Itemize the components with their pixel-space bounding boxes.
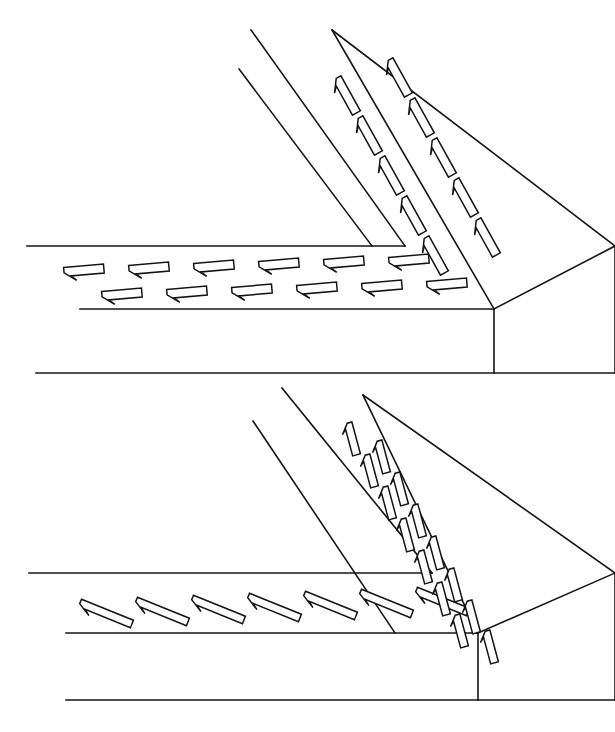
- top-horizontal-row-a-arrow-4: [324, 256, 365, 273]
- top-horizontal-row-b-arrow-4: [362, 280, 403, 297]
- top-horizontal-row-b-arrow-0: [102, 288, 143, 305]
- bottom-horizontal-row-arrow-4: [301, 591, 358, 623]
- top-horizontal-row-a-arrow-2: [194, 260, 235, 277]
- top-horizontal-row-b-arrow-5: [427, 278, 468, 295]
- top-horizontal-row-a-arrow-3: [259, 258, 300, 275]
- top-diagonal-col-a-arrow-2: [373, 156, 405, 198]
- drawing-canvas: [0, 0, 615, 732]
- top-edge-8: [332, 30, 494, 309]
- bottom-diagonal-col-a-arrow-0: [340, 422, 361, 457]
- top-diagonal-col-a-arrow-0: [329, 76, 361, 118]
- marking-group-top: [64, 58, 501, 306]
- bottom-diagonal-col-a-arrow-1: [358, 454, 379, 489]
- top-edge-3: [494, 246, 615, 309]
- bottom-diagonal-col-a-arrow-6: [448, 614, 469, 649]
- bottom-horizontal-row-arrow-3: [245, 593, 302, 625]
- bottom-horizontal-row-arrow-1: [133, 597, 190, 629]
- outline-group-bottom: [29, 388, 615, 700]
- top-diagonal-col-a-arrow-3: [395, 196, 427, 238]
- bottom-diagonal-col-a-arrow-4: [412, 550, 433, 585]
- top-horizontal-row-a-arrow-1: [129, 262, 170, 279]
- bottom-horizontal-row-arrow-2: [189, 595, 246, 627]
- top-diagonal-col-b-arrow-2: [425, 138, 457, 180]
- figure-upper-corner-assembly: [0, 0, 615, 390]
- top-horizontal-row-b-arrow-1: [167, 286, 208, 303]
- top-diagonal-col-b-arrow-0: [381, 58, 413, 100]
- top-horizontal-row-b-arrow-3: [297, 282, 338, 299]
- top-diagonal-col-a-arrow-1: [351, 116, 383, 158]
- figure-lower-corner-assembly: [0, 385, 615, 732]
- outline-group-top: [27, 30, 615, 373]
- bottom-edge-3: [478, 573, 615, 633]
- top-horizontal-row-a-arrow-0: [64, 264, 105, 281]
- top-horizontal-row-a-arrow-5: [389, 254, 430, 271]
- bottom-diagonal-col-a-arrow-3: [394, 518, 415, 553]
- bottom-horizontal-row-arrow-0: [77, 599, 134, 631]
- top-diagonal-col-b-arrow-3: [447, 178, 479, 220]
- top-edge-6: [251, 30, 405, 246]
- top-horizontal-row-b-arrow-2: [232, 284, 273, 301]
- marking-group-bottom: [77, 422, 499, 665]
- top-diagonal-col-b-arrow-4: [469, 218, 501, 260]
- bottom-diagonal-col-b-arrow-6: [478, 630, 499, 665]
